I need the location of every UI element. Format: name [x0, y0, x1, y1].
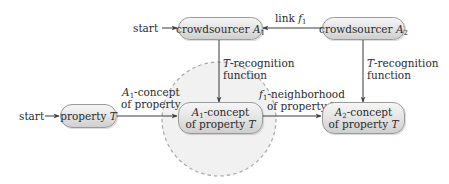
node-a1-concept[interactable]: A1-concept of property T	[178, 102, 263, 134]
node-a2-concept[interactable]: A2-concept of property T	[322, 102, 405, 134]
node-crowdsourcer-a1[interactable]: crowdsourcer A1	[178, 17, 263, 40]
node-crowdsourcer-a1-label: crowdsourcer A1	[176, 23, 265, 35]
node-property-t[interactable]: property T	[60, 104, 117, 128]
node-a1-concept-line2: of property T	[185, 118, 255, 130]
node-a2-concept-line1: A2-concept	[335, 106, 393, 118]
node-a1-concept-line1: A1-concept	[192, 106, 250, 118]
start-label-top: start	[133, 22, 158, 34]
edge-label-recognition-left: T-recognition function	[223, 57, 295, 81]
node-crowdsourcer-a2[interactable]: crowdsourcer A2	[322, 17, 405, 40]
diagram-canvas: start crowdsourcer A1 link f1 crowdsourc…	[0, 0, 449, 184]
edge-label-recognition-right: T-recognition function	[367, 57, 439, 81]
start-label-left: start	[19, 110, 44, 122]
node-a2-concept-line2: of property T	[328, 118, 398, 130]
node-property-t-label: property T	[60, 110, 117, 122]
edge-label-a1-concept-of-property: A1-concept of property	[121, 86, 181, 110]
edge-label-link-f1: link f1	[275, 12, 307, 24]
node-crowdsourcer-a2-label: crowdsourcer A2	[319, 23, 408, 35]
